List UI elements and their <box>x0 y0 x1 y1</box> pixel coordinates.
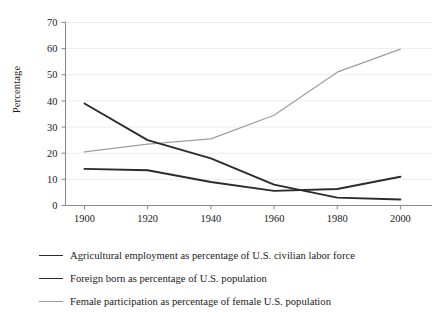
y-tick-label: 10 <box>47 174 57 185</box>
legend-label-foreign-born: Foreign born as percentage of U.S. popul… <box>70 273 267 284</box>
y-tick-label: 60 <box>47 43 57 54</box>
y-tick-label: 40 <box>47 96 57 107</box>
y-tick-label: 70 <box>47 17 57 28</box>
figure: Percentage 010203040506070 1900192019401… <box>0 0 438 313</box>
line-chart: 010203040506070 190019201940196019802000 <box>0 0 438 240</box>
y-tick-label: 20 <box>47 148 57 159</box>
data-series <box>84 49 400 199</box>
y-tick-label: 0 <box>52 200 57 211</box>
x-tick-label: 1960 <box>264 213 285 224</box>
x-tick-label: 2000 <box>390 213 411 224</box>
y-axis-label: Percentage <box>11 40 22 140</box>
legend-line-swatch-female-participation <box>39 301 63 302</box>
legend-item-agricultural: Agricultural employment as percentage of… <box>0 244 438 267</box>
legend-item-foreign-born: Foreign born as percentage of U.S. popul… <box>0 267 438 290</box>
chart-plot-area: Percentage 010203040506070 1900192019401… <box>0 0 438 240</box>
grid-lines <box>66 23 433 206</box>
x-axis-ticks: 190019201940196019802000 <box>74 206 411 225</box>
chart-legend: Agricultural employment as percentage of… <box>0 240 438 313</box>
x-tick-label: 1920 <box>137 213 158 224</box>
legend-label-female-participation: Female participation as percentage of fe… <box>70 296 331 307</box>
legend-line-swatch-agricultural <box>39 255 63 256</box>
legend-line-swatch-foreign-born <box>39 278 63 279</box>
legend-item-female-participation: Female participation as percentage of fe… <box>0 290 438 313</box>
legend-label-agricultural: Agricultural employment as percentage of… <box>70 250 355 261</box>
x-tick-label: 1940 <box>200 213 221 224</box>
y-tick-label: 30 <box>47 122 57 133</box>
x-tick-label: 1980 <box>327 213 348 224</box>
y-tick-label: 50 <box>47 69 57 80</box>
x-tick-label: 1900 <box>74 213 95 224</box>
y-axis-ticks: 010203040506070 <box>47 17 65 211</box>
